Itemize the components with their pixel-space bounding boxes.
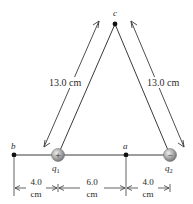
distance-a-q2-value: 4.0 [142,177,154,187]
charge-q2: − [164,149,177,162]
point-b-label: b [11,141,16,151]
distance-label-q1-c: 13.0 cm [49,77,81,88]
line-q2-to-c [115,24,170,155]
distance-q1-a-value: 6.0 [86,177,98,187]
charge-q2-label: q2 [165,163,173,174]
point-b [12,153,17,158]
point-c-label: c [113,8,117,18]
charge-q1-label: q1 [52,163,60,174]
point-c [113,22,118,27]
distance-q1-a-unit: cm [87,189,98,199]
charge-q2-sign: − [167,150,172,160]
distance-b-q1-value: 4.0 [30,177,42,187]
line-q1-to-c [58,24,115,155]
point-a-label: a [123,141,128,151]
charge-diagram: 13.0 cm 13.0 cm c b a + q1 − q2 [0,0,193,204]
distance-label-q2-c: 13.0 cm [147,77,179,88]
point-a [124,153,129,158]
distance-b-q1-unit: cm [31,189,42,199]
distance-a-q2-unit: cm [143,189,154,199]
charge-q1: + [52,149,65,162]
charge-q1-sign: + [55,150,61,161]
